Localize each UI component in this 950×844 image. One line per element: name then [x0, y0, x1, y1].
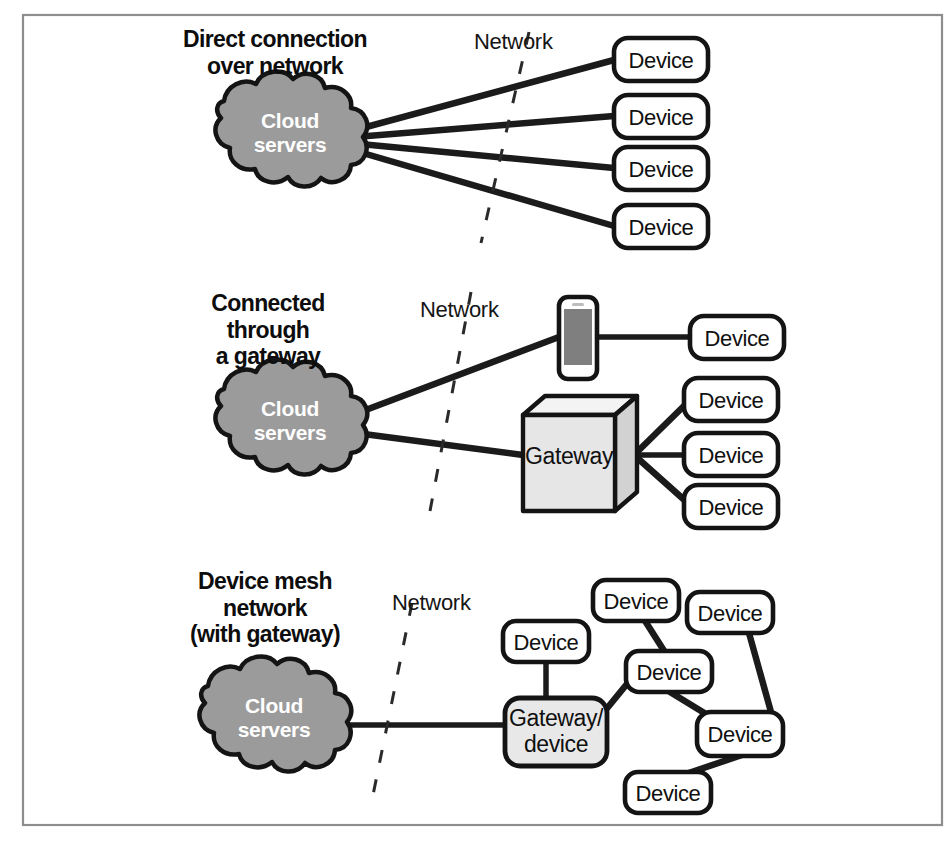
link-m4-m5 [749, 633, 771, 712]
mesh-gateway-label-line1: Gateway/ [509, 705, 604, 731]
network-label-mesh: Network [392, 590, 471, 616]
mesh-device-4[interactable]: Device [687, 592, 773, 633]
diagram-figure: Cloud servers Device Device Device Devic… [0, 0, 950, 844]
cloud-servers-mesh: Cloud servers [199, 657, 351, 772]
device-label: Device [698, 601, 763, 626]
device-label: Device [637, 660, 702, 685]
link-gateway-device-1 [634, 400, 690, 455]
mesh-gateway-label-line2: device [524, 731, 588, 757]
direct-device-4[interactable]: Device [614, 205, 708, 248]
mesh-device-2[interactable]: Device [593, 580, 679, 621]
network-boundary-gateway [430, 292, 471, 511]
cloud-servers-direct: Cloud servers [215, 72, 367, 187]
mesh-device-3[interactable]: Device [626, 651, 712, 692]
mesh-device-6[interactable]: Device [625, 772, 711, 813]
cloud-label-line2: servers [254, 133, 327, 156]
cloud-label-line2: servers [238, 718, 311, 741]
cloud-label-line1: Cloud [245, 694, 303, 717]
device-label: Device [708, 722, 773, 747]
cloud-label-line2: servers [254, 421, 327, 444]
network-label-direct: Network [474, 29, 553, 55]
gateway-device-2[interactable]: Device [684, 433, 778, 476]
cloud-label-line1: Cloud [261, 397, 319, 420]
device-label: Device [604, 589, 669, 614]
section-title-gateway: Connected through a gateway [168, 290, 368, 370]
direct-device-2[interactable]: Device [614, 95, 708, 138]
device-label: Device [629, 157, 694, 182]
link-gateway-device-3 [634, 455, 690, 505]
device-label: Device [514, 630, 579, 655]
device-label: Device [699, 388, 764, 413]
smartphone-icon[interactable] [559, 297, 597, 379]
device-label: Device [699, 495, 764, 520]
section-title-mesh: Device mesh network (with gateway) [160, 568, 370, 648]
network-boundary-mesh [372, 603, 412, 800]
direct-device-1[interactable]: Device [614, 38, 708, 81]
direct-device-3[interactable]: Device [614, 147, 708, 190]
gateway-device-3[interactable]: Device [684, 485, 778, 528]
network-label-gateway: Network [420, 297, 499, 323]
device-label: Device [629, 105, 694, 130]
diagram-canvas: Cloud servers Device Device Device Devic… [0, 0, 950, 844]
link-m3-m5 [670, 692, 706, 714]
gateway-device-1[interactable]: Device [684, 378, 778, 421]
device-label: Device [705, 326, 770, 351]
gateway-phone-device[interactable]: Device [690, 316, 784, 359]
device-label: Device [636, 781, 701, 806]
gateway-cube[interactable]: Gateway [523, 396, 637, 511]
gateway-label: Gateway [525, 443, 614, 469]
mesh-gateway-device[interactable]: Gateway/ device [505, 698, 607, 766]
network-boundary-direct [481, 32, 529, 243]
device-label: Device [629, 215, 694, 240]
figure-border [23, 15, 942, 825]
device-label: Device [699, 443, 764, 468]
cloud-servers-gateway: Cloud servers [215, 360, 367, 475]
mesh-device-1[interactable]: Device [503, 621, 589, 662]
section-title-direct: Direct connection over network [155, 26, 395, 79]
mesh-device-5[interactable]: Device [697, 712, 783, 756]
cloud-label-line1: Cloud [261, 109, 319, 132]
device-label: Device [629, 48, 694, 73]
